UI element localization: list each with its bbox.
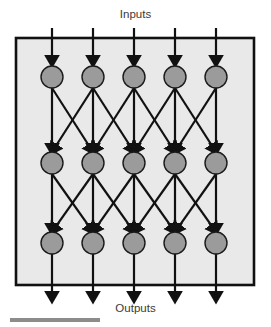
network-diagram: Inputs Outputs (0, 0, 271, 327)
network-node (123, 66, 145, 88)
scale-bar (10, 318, 100, 322)
network-node (41, 152, 63, 174)
network-node (123, 232, 145, 254)
inputs-label: Inputs (120, 8, 152, 20)
network-node (41, 232, 63, 254)
network-node (164, 152, 186, 174)
network-node (82, 152, 104, 174)
network-node (205, 232, 227, 254)
figure-root: Inputs Outputs (0, 0, 271, 327)
network-node (82, 232, 104, 254)
network-node (164, 66, 186, 88)
network-node (164, 232, 186, 254)
network-node (205, 152, 227, 174)
network-node (123, 152, 145, 174)
network-node (41, 66, 63, 88)
network-node (205, 66, 227, 88)
outputs-label: Outputs (115, 302, 156, 314)
network-node (82, 66, 104, 88)
